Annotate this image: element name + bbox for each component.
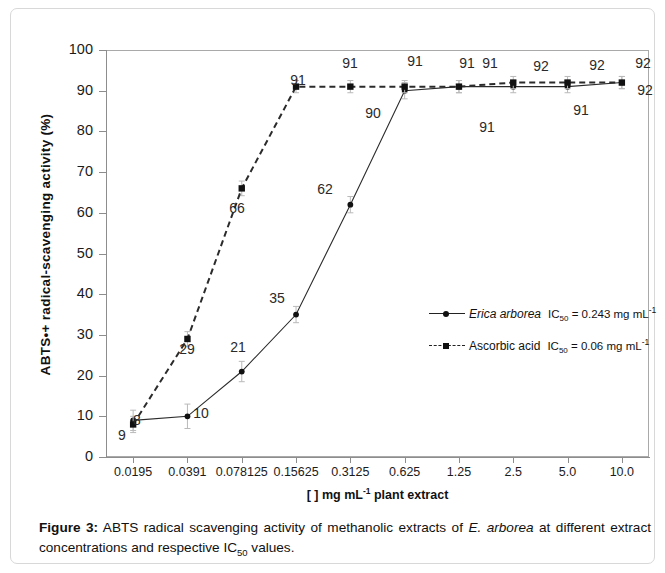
y-tick-label: 0 <box>51 448 93 464</box>
y-axis-title: ABTS•+ radical-scavenging activity (%) <box>38 45 53 445</box>
y-tick-mark <box>99 213 106 214</box>
legend-ic50-value: IC50 = 0.243 mg mL-1 <box>548 305 656 323</box>
x-tick-label: 0.078125 <box>216 465 268 479</box>
data-point-label: 90 <box>365 105 381 121</box>
ic50-number: = 0.243 mg mL <box>568 308 648 320</box>
x-tick-mark <box>459 457 460 463</box>
y-tick-label: 40 <box>51 285 93 301</box>
y-tick-mark <box>99 254 106 255</box>
x-tick-label: 0.625 <box>389 465 420 479</box>
data-point-label: 10 <box>193 405 209 421</box>
x-tick-label: 5.0 <box>559 465 576 479</box>
y-tick-mark <box>99 131 106 132</box>
x-tick-label: 0.0391 <box>168 465 206 479</box>
caption-ic50-subscript: 50 <box>237 547 248 558</box>
x-axis-title-main: [ ] mg mL <box>307 488 363 502</box>
data-point-label: 92 <box>635 55 651 71</box>
ic50-number: = 0.06 mg mL <box>568 340 642 352</box>
x-tick-mark <box>405 457 406 463</box>
data-point-label: 91 <box>407 53 423 69</box>
x-tick-mark <box>513 457 514 463</box>
y-tick-label: 80 <box>51 122 93 138</box>
y-tick-label: 90 <box>51 82 93 98</box>
data-point-label: 91 <box>479 119 495 135</box>
data-point-label: 62 <box>317 181 333 197</box>
y-tick-label: 70 <box>51 163 93 179</box>
data-point-label: 92 <box>637 82 653 98</box>
figure-caption: Figure 3: ABTS radical scavenging activi… <box>39 518 651 563</box>
x-axis-title-exponent: -1 <box>363 486 371 496</box>
data-point-label: 92 <box>589 57 605 73</box>
y-tick-label: 30 <box>51 326 93 342</box>
data-point-label: 8 <box>133 412 141 428</box>
y-tick-mark <box>99 294 106 295</box>
legend-ic50-value: IC50 = 0.06 mg mL-1 <box>547 337 649 355</box>
y-tick-label: 20 <box>51 367 93 383</box>
x-tick-label: 0.0195 <box>114 465 152 479</box>
x-tick-mark <box>350 457 351 463</box>
circle-marker <box>443 311 449 317</box>
data-point-label: 66 <box>229 200 245 216</box>
data-point-label: 91 <box>459 55 475 71</box>
y-axis-line <box>106 50 107 458</box>
caption-figure-number: Figure 3: <box>39 520 98 535</box>
data-point-label: 35 <box>269 290 285 306</box>
legend-series-name: Erica arborea <box>469 307 541 321</box>
ic50-exponent: -1 <box>642 337 650 347</box>
y-tick-mark <box>99 416 106 417</box>
x-tick-label: 10.0 <box>610 465 634 479</box>
radical-dot-icon: •+ <box>38 324 53 337</box>
x-tick-label: 0.3125 <box>331 465 369 479</box>
data-point-label: 91 <box>482 55 498 71</box>
y-tick-mark <box>99 335 106 336</box>
data-point-label: 92 <box>533 58 549 74</box>
x-axis-title: [ ] mg mL-1 plant extract <box>106 486 649 502</box>
data-point-label: 91 <box>290 72 306 88</box>
caption-text-part3: values. <box>248 540 295 555</box>
data-point-label: 9 <box>118 427 126 443</box>
y-tick-mark <box>99 457 106 458</box>
y-axis-ticks: 0102030405060708090100 <box>11 9 106 514</box>
y-tick-label: 50 <box>51 245 93 261</box>
chart-plot-area: 0102030405060708090100 0.01950.03910.078… <box>11 9 665 514</box>
ic50-label: IC <box>547 340 559 352</box>
square-marker <box>443 343 449 349</box>
data-point-label: 91 <box>342 55 358 71</box>
x-tick-mark <box>568 457 569 463</box>
legend-item: Ascorbic acidIC50 = 0.06 mg mL-1 <box>429 337 634 355</box>
x-tick-label: 2.5 <box>505 465 522 479</box>
y-tick-mark <box>99 172 106 173</box>
x-tick-mark <box>133 457 134 463</box>
caption-species-name: E. arborea <box>468 520 533 535</box>
x-axis-title-tail: plant extract <box>371 488 449 502</box>
y-tick-mark <box>99 376 106 377</box>
legend-marker-key <box>429 308 465 320</box>
data-point-label: 21 <box>230 339 246 355</box>
x-tick-label: 1.25 <box>447 465 471 479</box>
x-tick-mark <box>296 457 297 463</box>
x-tick-mark <box>622 457 623 463</box>
figure-frame: 0102030405060708090100 0.01950.03910.078… <box>10 8 655 564</box>
caption-text-part1: ABTS radical scavenging activity of meth… <box>98 520 468 535</box>
y-tick-label: 100 <box>51 41 93 57</box>
data-point-label: 29 <box>179 341 195 357</box>
ic50-exponent: -1 <box>649 305 657 315</box>
ic50-label: IC <box>548 308 560 320</box>
legend-item: Erica arboreaIC50 = 0.243 mg mL-1 <box>429 305 634 323</box>
x-tick-label: 0.15625 <box>273 465 318 479</box>
data-point-label: 91 <box>573 102 589 118</box>
y-tick-mark <box>99 91 106 92</box>
y-tick-mark <box>99 50 106 51</box>
x-tick-mark <box>187 457 188 463</box>
y-tick-label: 60 <box>51 204 93 220</box>
y-tick-label: 10 <box>51 407 93 423</box>
x-tick-mark <box>242 457 243 463</box>
y-axis-title-text-b: radical-scavenging activity (%) <box>38 114 53 325</box>
y-axis-title-text-a: ABTS <box>38 337 53 375</box>
ic50-subscript: 50 <box>559 346 568 355</box>
legend-marker-key <box>429 340 465 352</box>
legend-series-name: Ascorbic acid <box>469 339 540 353</box>
chart-legend: Erica arboreaIC50 = 0.243 mg mL-1Ascorbi… <box>429 305 634 369</box>
